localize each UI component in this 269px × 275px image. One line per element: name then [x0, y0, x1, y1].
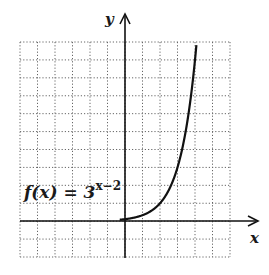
chart: y x f(x) = 3x−2	[0, 0, 269, 275]
x-axis-label: x	[249, 229, 260, 247]
function-label-exponent: x−2	[95, 179, 121, 193]
function-label: f(x) = 3x−2	[23, 179, 121, 202]
y-axis-label: y	[104, 10, 115, 28]
function-curve	[120, 45, 197, 220]
function-label-base: f(x) = 3	[23, 182, 96, 202]
